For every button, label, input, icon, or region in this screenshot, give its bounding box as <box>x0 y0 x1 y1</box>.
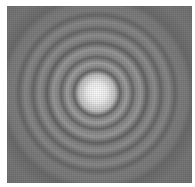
airy-diffraction-pattern <box>7 6 192 183</box>
concentric-rings <box>7 6 192 183</box>
image-canvas <box>0 0 195 187</box>
